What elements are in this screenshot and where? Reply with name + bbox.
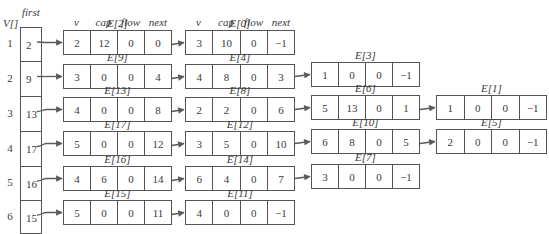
edge-field-flow: 0 (241, 201, 268, 224)
vertex-index: 1 (4, 37, 16, 49)
edge-field-next: −1 (268, 201, 294, 224)
edge-field-flow: 0 (492, 130, 520, 153)
edge-label: E[11] (185, 187, 295, 199)
first-pointer-arrow (37, 213, 62, 216)
vertex-index: 4 (4, 142, 16, 154)
vertex-index: 2 (4, 72, 16, 84)
edge-field-flow: 0 (118, 132, 145, 155)
first-pointer-arrow (37, 179, 62, 182)
edge-label: E[13] (63, 84, 172, 96)
edge-label: E[5] (436, 116, 547, 128)
edge-field-cap: 0 (339, 165, 366, 188)
edge-record: 300−1 (311, 164, 420, 189)
edge-label: E[1] (436, 82, 547, 94)
edge-label: E[12] (185, 118, 295, 130)
first-pointer-arrow (37, 144, 62, 147)
edge-label: E[0] (185, 17, 295, 29)
edge-field-v: 6 (312, 130, 339, 153)
edge-field-next: 12 (145, 132, 171, 155)
edge-label: E[10] (311, 116, 420, 128)
edge-field-cap: 0 (91, 201, 118, 224)
edge-label: E[14] (185, 153, 295, 165)
edge-field-v: 5 (64, 201, 91, 224)
edge-record: 400−1 (185, 200, 295, 225)
edge-field-next: 5 (393, 130, 419, 153)
edge-field-cap: 0 (465, 130, 493, 153)
vertex-index: 5 (4, 176, 16, 188)
edge-field-flow: 0 (366, 165, 393, 188)
edge-field-flow: 0 (118, 201, 145, 224)
edge-field-cap: 8 (339, 130, 366, 153)
edge-field-v: 5 (64, 132, 91, 155)
edge-field-cap: 0 (91, 132, 118, 155)
edge-label: E[15] (63, 187, 172, 199)
edge-label: E[8] (185, 84, 295, 96)
edge-label: E[7] (311, 151, 420, 163)
vertex-index: 6 (4, 210, 16, 222)
edge-field-next: −1 (520, 130, 547, 153)
edge-label: E[2] (63, 17, 172, 29)
edge-field-flow: 0 (366, 130, 393, 153)
edge-field-next: 10 (268, 132, 294, 155)
edge-field-v: 2 (437, 130, 465, 153)
edge-label: E[4] (185, 51, 295, 63)
edge-label: E[3] (311, 49, 420, 61)
edge-label: E[9] (63, 51, 172, 63)
edge-field-v: 3 (186, 132, 213, 155)
edge-field-next: −1 (393, 165, 419, 188)
edge-field-next: 11 (145, 201, 171, 224)
edge-label: E[17] (63, 118, 172, 130)
edge-field-v: 3 (312, 165, 339, 188)
edge-field-cap: 0 (213, 201, 240, 224)
edge-field-cap: 5 (213, 132, 240, 155)
edge-field-flow: 0 (241, 132, 268, 155)
edge-label: E[16] (63, 153, 172, 165)
edge-record: 200−1 (436, 129, 547, 154)
first-pointer-arrow (37, 110, 62, 112)
edge-field-v: 4 (186, 201, 213, 224)
edge-label: E[6] (311, 82, 420, 94)
edge-record: 50011 (63, 200, 172, 225)
vertex-index: 3 (4, 107, 16, 119)
first-pointer-arrow (37, 42, 62, 43)
